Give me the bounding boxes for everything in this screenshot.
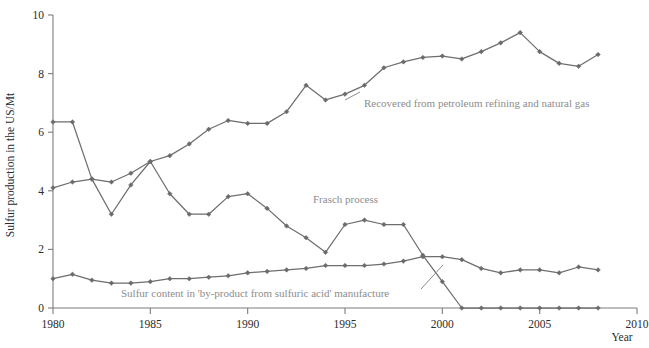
y-axis-title: Sulfur production in the US/Mt [4, 92, 17, 237]
chart-canvas: 0246810 1980198519901995200020052010 Rec… [0, 0, 649, 348]
x-tick-label-2000: 2000 [431, 318, 454, 330]
y-tick-label-4: 4 [38, 185, 44, 197]
y-tick-label-10: 10 [33, 9, 45, 21]
y-tick-label-6: 6 [38, 126, 44, 138]
sulfur-production-line-chart: 0246810 1980198519901995200020052010 Rec… [0, 0, 649, 348]
recovered-label: Recovered from petroleum refining and na… [364, 97, 589, 109]
x-tick-label-1980: 1980 [42, 318, 65, 330]
x-tick-label-2010: 2010 [626, 318, 649, 330]
y-tick-label-8: 8 [38, 68, 44, 80]
x-tick-label-2005: 2005 [528, 318, 551, 330]
x-tick-label-1985: 1985 [139, 318, 162, 330]
y-tick-label-0: 0 [38, 302, 44, 314]
y-tick-label-2: 2 [38, 243, 44, 255]
x-tick-label-1990: 1990 [236, 318, 259, 330]
x-tick-label-1995: 1995 [334, 318, 357, 330]
frasch-label: Frasch process [313, 193, 378, 205]
x-axis-title: Year [611, 331, 632, 343]
byproduct-label: Sulfur content in 'by-product from sulfu… [121, 287, 389, 299]
